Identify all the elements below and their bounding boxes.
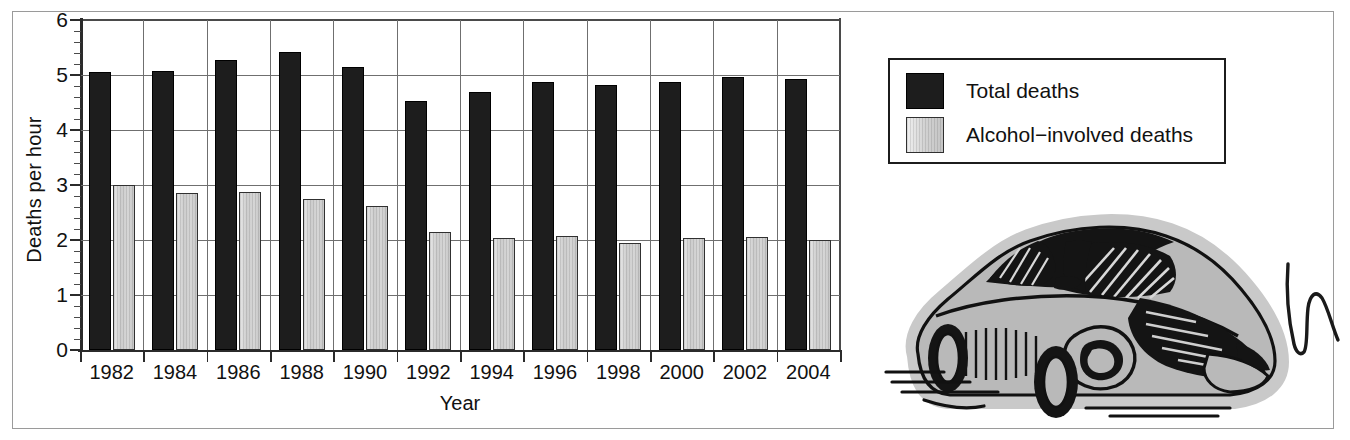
y-minor-tick (74, 174, 81, 176)
y-minor-tick (74, 97, 81, 99)
y-tick-label-1: 1 (40, 284, 68, 305)
y-minor-tick (74, 86, 81, 88)
crashed-car-icon (878, 186, 1298, 436)
y-tick-3 (70, 184, 81, 186)
gridline-x-3 (270, 20, 271, 350)
y-tick-2 (70, 239, 81, 241)
y-minor-tick (74, 207, 81, 209)
bar-alcohol-involved-deaths-2002 (746, 237, 768, 350)
gridline-x-7 (523, 20, 524, 350)
stray-pen-mark (1276, 256, 1346, 366)
legend-label-alcohol-involved-deaths: Alcohol−involved deaths (966, 123, 1193, 147)
bar-total-deaths-2002 (722, 77, 744, 350)
bar-total-deaths-1984 (152, 71, 174, 350)
gridline-x-9 (650, 20, 651, 350)
y-minor-tick (74, 306, 81, 308)
bar-total-deaths-2000 (659, 82, 681, 350)
bar-alcohol-involved-deaths-1984 (176, 193, 198, 350)
y-tick-1 (70, 294, 81, 296)
bar-total-deaths-1986 (215, 60, 237, 350)
y-minor-tick (74, 196, 81, 198)
bar-total-deaths-1990 (342, 67, 364, 350)
legend-swatch-alcohol-involved-deaths (906, 117, 944, 153)
y-minor-tick (74, 152, 81, 154)
bar-alcohol-involved-deaths-1996 (556, 236, 578, 350)
y-tick-label-0: 0 (40, 339, 68, 360)
bar-total-deaths-1994 (469, 92, 491, 351)
gridline-x-4 (333, 20, 334, 350)
y-tick-label-5: 5 (40, 64, 68, 85)
y-minor-tick (74, 218, 81, 220)
bar-total-deaths-1988 (279, 52, 301, 350)
gridline-x-8 (587, 20, 588, 350)
bar-alcohol-involved-deaths-1982 (113, 185, 135, 350)
bar-alcohol-involved-deaths-1992 (429, 232, 451, 350)
bar-chart: Deaths per hour 0123456 1982198419861988… (0, 0, 900, 440)
bar-total-deaths-1992 (405, 101, 427, 350)
y-minor-tick (74, 317, 81, 319)
bar-total-deaths-2004 (785, 79, 807, 350)
legend-swatch-total-deaths (906, 73, 944, 109)
y-minor-tick (74, 53, 81, 55)
y-minor-tick (74, 339, 81, 341)
gridline-x-2 (207, 20, 208, 350)
y-minor-tick (74, 31, 81, 33)
bar-alcohol-involved-deaths-1994 (493, 238, 515, 350)
bar-total-deaths-1982 (89, 72, 111, 350)
legend-item-alcohol-involved-deaths: Alcohol−involved deaths (906, 116, 1193, 154)
gridline-x-11 (777, 20, 778, 350)
chart-legend: Total deaths Alcohol−involved deaths (888, 58, 1226, 164)
x-tick-label-2004: 2004 (768, 360, 848, 384)
y-tick-6 (70, 19, 81, 21)
y-minor-tick (74, 251, 81, 253)
y-tick-label-6: 6 (40, 9, 68, 30)
y-minor-tick (74, 163, 81, 165)
bar-alcohol-involved-deaths-1998 (619, 243, 641, 350)
bar-total-deaths-1998 (595, 85, 617, 350)
y-tick-label-4: 4 (40, 119, 68, 140)
bar-total-deaths-1996 (532, 82, 554, 350)
gridline-x-10 (713, 20, 714, 350)
bar-alcohol-involved-deaths-2004 (809, 240, 831, 350)
legend-label-total-deaths: Total deaths (966, 79, 1079, 103)
bar-alcohol-involved-deaths-1986 (239, 192, 261, 350)
y-minor-tick (74, 229, 81, 231)
bar-alcohol-involved-deaths-1988 (303, 199, 325, 350)
y-minor-tick (74, 262, 81, 264)
y-tick-5 (70, 74, 81, 76)
legend-item-total-deaths: Total deaths (906, 72, 1079, 110)
y-tick-label-2: 2 (40, 229, 68, 250)
y-minor-tick (74, 284, 81, 286)
y-minor-tick (74, 328, 81, 330)
y-minor-tick (74, 42, 81, 44)
y-minor-tick (74, 119, 81, 121)
y-axis-tick-labels: 0123456 (12, 0, 68, 440)
x-axis-title: Year (80, 392, 840, 415)
bar-alcohol-involved-deaths-2000 (683, 238, 705, 350)
gridline-x-1 (143, 20, 144, 350)
bar-alcohol-involved-deaths-1990 (366, 206, 388, 350)
y-minor-tick (74, 141, 81, 143)
gridline-x-5 (397, 20, 398, 350)
y-tick-label-3: 3 (40, 174, 68, 195)
y-tick-4 (70, 129, 81, 131)
y-minor-tick (74, 273, 81, 275)
y-minor-tick (74, 64, 81, 66)
gridline-x-6 (460, 20, 461, 350)
y-minor-tick (74, 108, 81, 110)
